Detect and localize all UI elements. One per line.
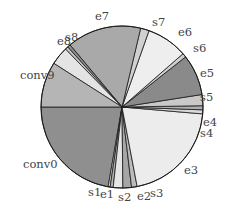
slice-label-e4: e4	[203, 115, 217, 129]
slice-label-e7: e7	[95, 9, 109, 23]
slice-label-e3: e3	[184, 163, 198, 177]
slice-label-conv9: conv9	[20, 68, 55, 82]
slice-label-s2: s2	[118, 190, 131, 204]
slice-label-conv0: conv0	[23, 157, 58, 171]
slice-label-e6: e6	[178, 25, 192, 39]
slice-label-e5: e5	[200, 66, 214, 80]
slice-label-e1: e1	[100, 187, 114, 201]
slice-label-s5: s5	[200, 90, 213, 104]
slice-label-s8: s8	[65, 30, 78, 44]
slice-label-e2: e2	[137, 189, 151, 203]
slice-label-s6: s6	[193, 41, 206, 55]
pie-chart: conv0s1e1s2e2s3e3s4e4s5e5s6e6s7e7e8s8con…	[0, 0, 232, 215]
pie-slices	[41, 26, 203, 188]
slice-label-s7: s7	[152, 15, 165, 29]
slice-label-s3: s3	[150, 186, 163, 200]
